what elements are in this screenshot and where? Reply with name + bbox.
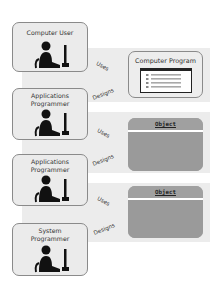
object-label: Object: [128, 186, 203, 198]
program-window-icon: [140, 68, 192, 93]
object-body: [128, 132, 203, 172]
list-lines-icon: [141, 71, 191, 91]
actor-label: Applications Programmer: [13, 158, 87, 173]
actor-label: Applications Programmer: [13, 92, 87, 107]
actor-label: Computer User: [13, 29, 87, 37]
computer-program-label: Computer Program: [129, 57, 202, 65]
actor-system-programmer: System Programmer: [12, 223, 88, 276]
person-at-computer-icon: [33, 245, 73, 273]
person-at-computer-icon: [33, 41, 73, 69]
object-body: [128, 200, 203, 239]
computer-program-box: Computer Program: [128, 51, 203, 98]
object-box-1: Object: [128, 118, 203, 171]
actor-applications-programmer-2: Applications Programmer: [12, 154, 88, 206]
actor-applications-programmer-1: Applications Programmer: [12, 88, 88, 140]
object-box-2: Object: [128, 186, 203, 238]
object-label: Object: [128, 118, 203, 130]
actor-computer-user: Computer User: [12, 22, 88, 72]
actor-label: System Programmer: [13, 227, 87, 242]
person-at-computer-icon: [33, 175, 73, 203]
person-at-computer-icon: [33, 109, 73, 137]
